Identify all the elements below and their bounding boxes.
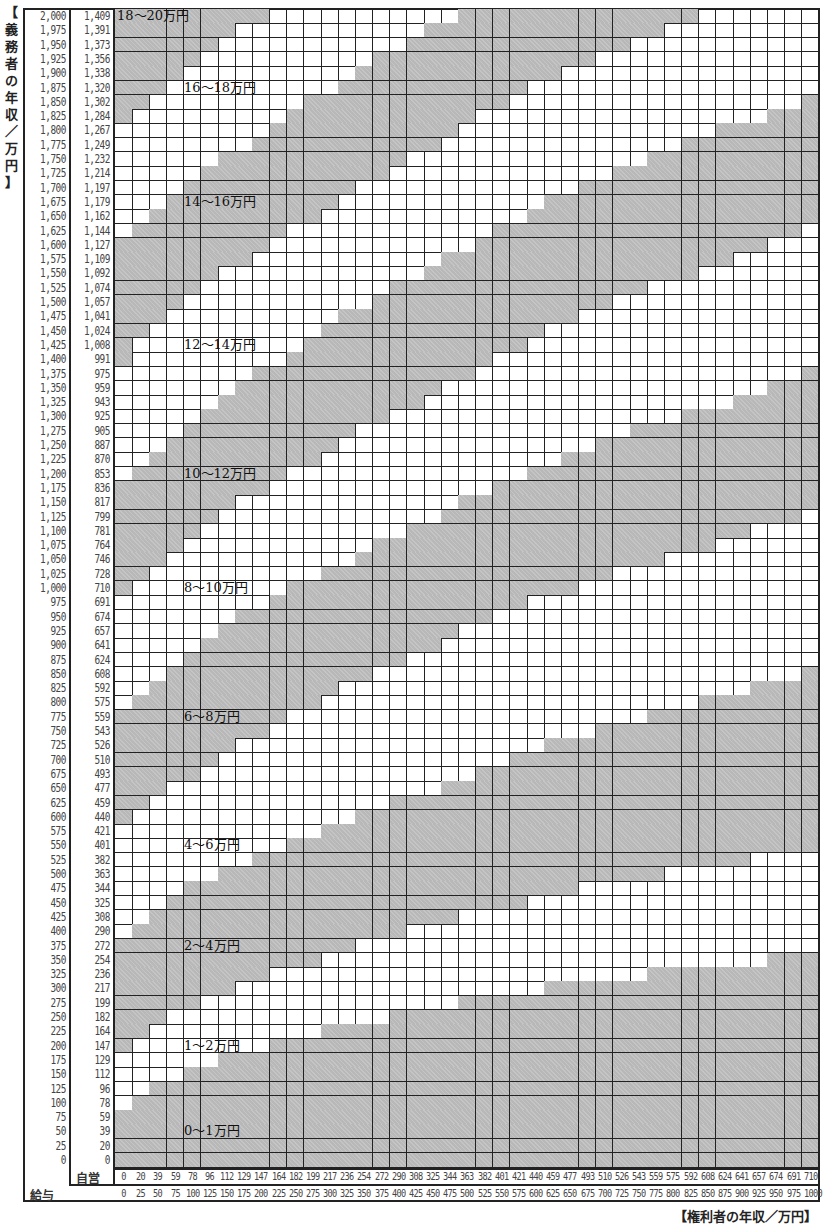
grid-cell — [132, 109, 150, 124]
grid-cell — [682, 481, 700, 496]
grid-cell — [682, 1053, 700, 1068]
grid-cell — [527, 1096, 545, 1111]
grid-cell — [373, 796, 391, 811]
grid-cell — [767, 595, 785, 610]
grid-cell — [750, 1153, 768, 1168]
grid-cell — [579, 910, 597, 925]
grid-cell — [184, 881, 202, 896]
grid-cell — [664, 181, 682, 196]
grid-cell — [682, 910, 700, 925]
grid-cell — [304, 810, 322, 825]
grid-cell — [682, 109, 700, 124]
grid-cell — [441, 910, 459, 925]
grid-cell — [630, 1010, 648, 1025]
grid-cell — [201, 867, 219, 882]
grid-cell — [613, 1124, 631, 1139]
grid-cell — [304, 238, 322, 253]
grid-cell — [716, 610, 734, 625]
grid-cell — [630, 424, 648, 439]
grid-cell — [287, 967, 305, 982]
grid-cell — [218, 395, 236, 410]
grid-cell — [733, 1110, 751, 1125]
grid-cell — [458, 467, 476, 482]
grid-cell — [785, 953, 803, 968]
obligee-self-employed-label: 657 — [752, 1169, 765, 1184]
grid-cell — [458, 452, 476, 467]
grid-cell — [750, 824, 768, 839]
grid-cell — [218, 595, 236, 610]
grid-cell — [338, 238, 356, 253]
grid-cell — [579, 753, 597, 768]
obligor-salary-label: 950 — [33, 610, 66, 624]
grid-cell — [149, 295, 167, 310]
grid-cell — [424, 1067, 442, 1082]
obligor-self-employed-label: 363 — [79, 867, 110, 881]
obligor-self-employed-label: 78 — [79, 1096, 110, 1110]
grid-cell — [647, 238, 665, 253]
grid-cell — [373, 238, 391, 253]
grid-cell — [218, 667, 236, 682]
grid-cell — [373, 195, 391, 210]
grid-cell — [115, 467, 133, 482]
grid-cell — [767, 667, 785, 682]
grid-cell — [527, 138, 545, 153]
grid-cell — [321, 95, 339, 110]
grid-cell — [338, 324, 356, 339]
grid-cell — [733, 324, 751, 339]
grid-cell — [184, 52, 202, 67]
grid-cell — [630, 552, 648, 567]
grid-cell — [201, 1024, 219, 1039]
grid-cell — [476, 1082, 494, 1097]
grid-cell — [184, 896, 202, 911]
grid-cell — [767, 166, 785, 181]
grid-cell — [510, 281, 528, 296]
grid-cell — [441, 810, 459, 825]
grid-cell — [699, 1110, 717, 1125]
grid-cell — [184, 266, 202, 281]
grid-cell — [132, 438, 150, 453]
grid-cell — [458, 252, 476, 267]
grid-cell — [699, 1139, 717, 1154]
grid-cell — [647, 939, 665, 954]
grid-cell — [184, 738, 202, 753]
grid-cell — [544, 1082, 562, 1097]
grid-cell — [132, 309, 150, 324]
grid-cell — [682, 953, 700, 968]
grid-cell — [458, 667, 476, 682]
grid-cell — [579, 1053, 597, 1068]
grid-cell — [218, 853, 236, 868]
obligor-salary-label: 1,850 — [33, 95, 66, 109]
grid-cell — [235, 238, 253, 253]
grid-cell — [802, 567, 820, 582]
grid-cell — [613, 910, 631, 925]
grid-cell — [510, 824, 528, 839]
grid-cell — [596, 781, 614, 796]
grid-cell — [733, 352, 751, 367]
grid-cell — [561, 667, 579, 682]
grid-cell — [596, 395, 614, 410]
grid-cell — [304, 538, 322, 553]
grid-cell — [235, 209, 253, 224]
grid-cell — [149, 252, 167, 267]
grid-cell — [802, 1139, 820, 1154]
grid-cell — [750, 624, 768, 639]
grid-cell — [252, 309, 270, 324]
grid-cell — [664, 109, 682, 124]
grid-cell — [321, 109, 339, 124]
obligee-salary-label: 0 — [117, 1186, 130, 1201]
grid-cell — [201, 796, 219, 811]
obligor-salary-label: 1,200 — [33, 467, 66, 481]
grid-cell — [493, 467, 511, 482]
grid-cell — [304, 996, 322, 1011]
grid-cell — [802, 1110, 820, 1125]
grid-cell — [287, 367, 305, 382]
grid-cell — [338, 209, 356, 224]
grid-cell — [733, 1010, 751, 1025]
grid-cell — [613, 66, 631, 81]
grid-cell — [167, 195, 185, 210]
grid-cell — [767, 352, 785, 367]
grid-cell — [167, 1010, 185, 1025]
grid-cell — [682, 624, 700, 639]
grid-cell — [750, 581, 768, 596]
grid-cell — [699, 438, 717, 453]
